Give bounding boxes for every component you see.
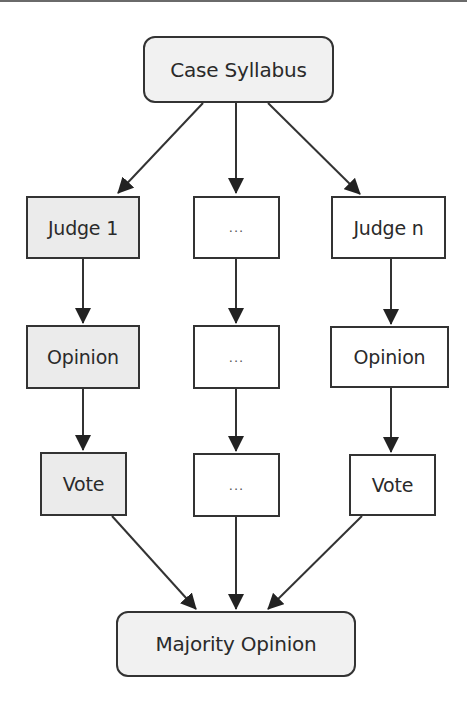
- judge-n-opinion-label: Opinion: [354, 346, 426, 368]
- judge-1-opinion-label: Opinion: [47, 346, 119, 368]
- middle-opinion-ellipsis: ...: [229, 350, 244, 365]
- judge-n-opinion-node: Opinion: [330, 326, 449, 388]
- judge-1-vote-node: Vote: [40, 452, 127, 516]
- majority-opinion-label: Majority Opinion: [155, 632, 316, 656]
- edge-syllabus-judge1: [118, 103, 203, 193]
- judge-n-vote-label: Vote: [372, 474, 414, 496]
- middle-vote-ellipsis: ...: [229, 478, 244, 493]
- majority-opinion-node: Majority Opinion: [116, 611, 356, 677]
- judge-n-node: Judge n: [331, 196, 446, 259]
- judge-1-label: Judge 1: [48, 217, 118, 239]
- judge-1-vote-label: Vote: [63, 473, 105, 495]
- case-syllabus-label: Case Syllabus: [170, 58, 306, 82]
- judge-1-opinion-node: Opinion: [26, 325, 140, 389]
- middle-judge-node: ...: [193, 196, 280, 259]
- case-syllabus-node: Case Syllabus: [143, 36, 334, 103]
- edge-syllabus-judgen: [268, 103, 360, 194]
- middle-opinion-node: ...: [193, 325, 280, 389]
- judge-n-label: Judge n: [353, 217, 423, 239]
- middle-vote-node: ...: [193, 453, 280, 517]
- judge-1-node: Judge 1: [26, 196, 140, 259]
- middle-judge-ellipsis: ...: [229, 220, 244, 235]
- judge-n-vote-node: Vote: [349, 454, 436, 516]
